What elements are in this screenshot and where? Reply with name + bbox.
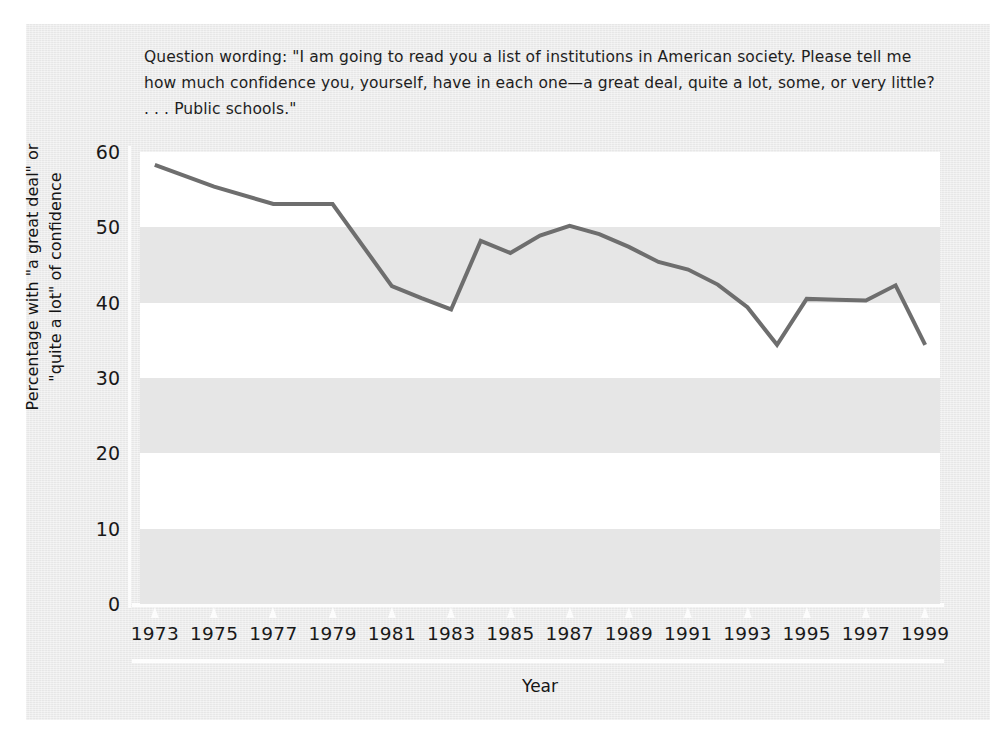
x-tick-mark-icon [862,607,870,618]
x-tick-mark-icon [269,607,277,618]
x-tick-label: 1997 [842,623,890,644]
x-tick-mark-icon [388,607,396,618]
x-tick: 1979 [308,607,356,644]
confidence-series-line [155,165,925,345]
x-tick-label: 1985 [486,623,534,644]
x-tick: 1991 [664,607,712,644]
x-tick-label: 1991 [664,623,712,644]
x-axis-title: Year [140,676,940,696]
x-tick-mark-icon [506,607,514,618]
x-tick-label: 1995 [783,623,831,644]
x-tick-mark-icon [447,607,455,618]
x-tick-label: 1981 [368,623,416,644]
y-axis-title-line-1: Percentage with "a great deal" or [21,57,44,497]
x-tick-mark-icon [684,607,692,618]
x-tick: 1985 [486,607,534,644]
x-tick-label: 1993 [723,623,771,644]
x-tick: 1995 [783,607,831,644]
x-tick-mark-icon [803,607,811,618]
y-tick-label: 0 [78,593,120,615]
question-wording-text: Question wording: "I am going to read yo… [144,44,944,122]
x-tick-mark-icon [743,607,751,618]
x-tick: 1987 [545,607,593,644]
x-tick: 1981 [368,607,416,644]
plot-area [140,152,940,604]
x-tick-mark-icon [210,607,218,618]
y-tick-label: 10 [78,518,120,540]
y-axis-tick-labels: 0102030405060 [78,0,120,736]
x-tick-mark-icon [151,607,159,618]
x-tick: 1973 [131,607,179,644]
y-tick-label: 40 [78,292,120,314]
x-tick: 1997 [842,607,890,644]
x-tick: 1983 [427,607,475,644]
x-tick-mark-icon [625,607,633,618]
x-tick: 1977 [249,607,297,644]
x-tick-label: 1989 [605,623,653,644]
x-tick-label: 1987 [545,623,593,644]
data-line-chart [140,152,940,604]
y-tick-label: 60 [78,141,120,163]
y-tick-label: 30 [78,367,120,389]
y-axis-title-line-2: "quite a lot" of confidence [44,57,67,497]
y-tick-label: 50 [78,216,120,238]
y-tick-label: 20 [78,442,120,464]
x-tick-mark-icon [329,607,337,618]
x-tick-label: 1999 [901,623,949,644]
x-tick: 1993 [723,607,771,644]
axis-bottom-rule [132,659,944,663]
x-tick-label: 1979 [308,623,356,644]
x-tick-mark-icon [921,607,929,618]
x-tick-label: 1973 [131,623,179,644]
y-axis-title: Percentage with "a great deal" or "quite… [21,57,67,497]
y-axis-line [128,146,131,608]
x-axis-tick-labels: 1973197519771979198119831985198719891991… [140,607,940,657]
x-tick: 1989 [605,607,653,644]
x-tick: 1999 [901,607,949,644]
x-tick-label: 1975 [190,623,238,644]
x-tick-label: 1977 [249,623,297,644]
x-tick-mark-icon [566,607,574,618]
x-tick-label: 1983 [427,623,475,644]
x-tick: 1975 [190,607,238,644]
